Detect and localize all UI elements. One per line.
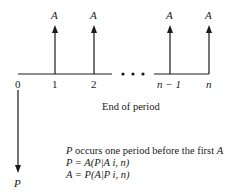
period-label-n-minus-1: n − 1: [157, 79, 181, 90]
arrow-up-period-2: [91, 25, 97, 74]
formula-a-from-p: A = P(A|P i, n): [66, 169, 130, 181]
receipt-label: A: [90, 10, 97, 21]
period-label-n: n: [206, 79, 212, 90]
arrow-up-period-n-minus-1: [167, 25, 173, 74]
axis-caption: End of period: [102, 101, 160, 112]
formula-p-from-a: P = A(P|A i, n): [66, 157, 129, 169]
arrow-up-period-n: [206, 25, 212, 74]
arrow-down-present-worth: [15, 90, 21, 173]
note-text: occurs one period before the first: [72, 145, 216, 156]
ellipsis-dots: [121, 72, 144, 75]
note-var-a: A: [217, 145, 223, 156]
receipt-label: A: [51, 10, 58, 21]
note-line-1: P occurs one period before the first A: [66, 145, 223, 157]
arrow-up-period-1: [52, 25, 58, 74]
receipt-label: A: [166, 10, 173, 21]
period-label-2: 2: [91, 79, 97, 90]
period-label-1: 1: [52, 79, 58, 90]
receipt-label: A: [205, 10, 212, 21]
present-worth-label: P: [14, 178, 21, 189]
period-label-0: 0: [15, 79, 21, 90]
